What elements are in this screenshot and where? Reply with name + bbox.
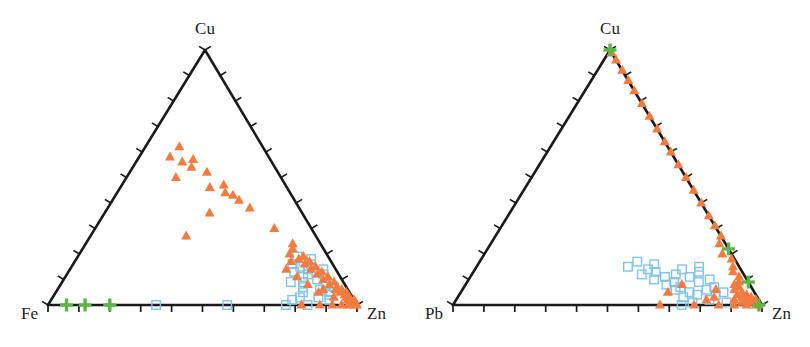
axis-tick xyxy=(73,250,79,254)
axis-tick xyxy=(220,72,226,76)
data-point-cross xyxy=(60,299,73,312)
axis-tick xyxy=(311,225,317,229)
axis-tick xyxy=(588,72,594,76)
axis-tick xyxy=(168,97,174,101)
data-point-square xyxy=(624,263,633,272)
axis-tick-corner xyxy=(205,46,211,50)
ticks-right-edge xyxy=(220,72,348,280)
axis-tick xyxy=(152,123,158,127)
ternary-panel-right: CuPbZn xyxy=(405,0,810,347)
axis-tick xyxy=(526,174,532,178)
axis-tick xyxy=(478,250,484,254)
data-point-triangle xyxy=(202,167,212,176)
data-point-triangle xyxy=(219,180,229,189)
ticks-left-edge xyxy=(58,72,190,280)
axis-tick xyxy=(136,148,142,152)
axis-tick xyxy=(296,199,302,203)
vertex-label-left: Fe xyxy=(21,304,38,323)
ternary-plot-left: CuFeZn xyxy=(0,0,405,347)
data-point-triangle xyxy=(205,182,215,191)
data-point-triangle xyxy=(171,172,181,181)
axis-tick xyxy=(541,148,547,152)
data-point-square xyxy=(299,288,308,297)
axis-tick xyxy=(58,276,64,280)
data-point-triangle xyxy=(245,203,255,212)
axis-tick xyxy=(463,276,469,280)
data-point-triangle xyxy=(228,190,238,199)
vertex-label-top: Cu xyxy=(195,19,215,38)
ticks-left-edge xyxy=(463,72,595,280)
vertex-label-top: Cu xyxy=(600,19,620,38)
data-point-cross xyxy=(742,276,755,289)
ternary-plot-right: CuPbZn xyxy=(405,0,810,347)
series-orange-triangles xyxy=(165,141,362,308)
axis-tick xyxy=(235,97,241,101)
axis-tick xyxy=(266,148,272,152)
data-point-triangle xyxy=(181,231,191,240)
axis-tick xyxy=(573,97,579,101)
axis-tick-corner xyxy=(199,46,205,50)
axis-tick xyxy=(105,199,111,203)
data-point-triangle xyxy=(188,154,198,163)
data-point-triangle xyxy=(165,152,175,161)
axis-tick-corner xyxy=(447,301,453,305)
data-point-cross xyxy=(79,299,92,312)
axis-tick xyxy=(121,174,127,178)
axis-tick xyxy=(732,250,738,254)
axis-tick xyxy=(89,225,95,229)
ternary-diagram-figure: CuFeZn CuPbZn xyxy=(0,0,810,347)
data-point-triangle xyxy=(177,157,187,166)
axis-tick xyxy=(251,123,257,127)
data-point-square xyxy=(633,257,642,266)
data-point-triangle xyxy=(174,141,184,150)
data-point-square xyxy=(638,270,647,279)
data-point-triangle xyxy=(205,208,215,217)
vertex-label-right: Zn xyxy=(772,304,791,323)
series-blue-squares xyxy=(624,257,731,309)
series-green-crosses xyxy=(60,299,116,312)
vertex-label-right: Zn xyxy=(367,304,386,323)
data-point-square xyxy=(695,263,704,272)
axis-tick xyxy=(281,174,287,178)
axis-tick xyxy=(494,225,500,229)
ternary-panel-left: CuFeZn xyxy=(0,0,405,347)
axis-tick xyxy=(510,199,516,203)
axis-tick-corner xyxy=(42,301,48,305)
axis-tick xyxy=(183,72,189,76)
axis-tick xyxy=(557,123,563,127)
vertex-label-left: Pb xyxy=(425,304,443,323)
axis-tick xyxy=(327,250,333,254)
data-point-square xyxy=(695,268,704,277)
axis-tick xyxy=(342,276,348,280)
data-point-triangle xyxy=(269,223,279,232)
data-point-cross xyxy=(103,299,116,312)
